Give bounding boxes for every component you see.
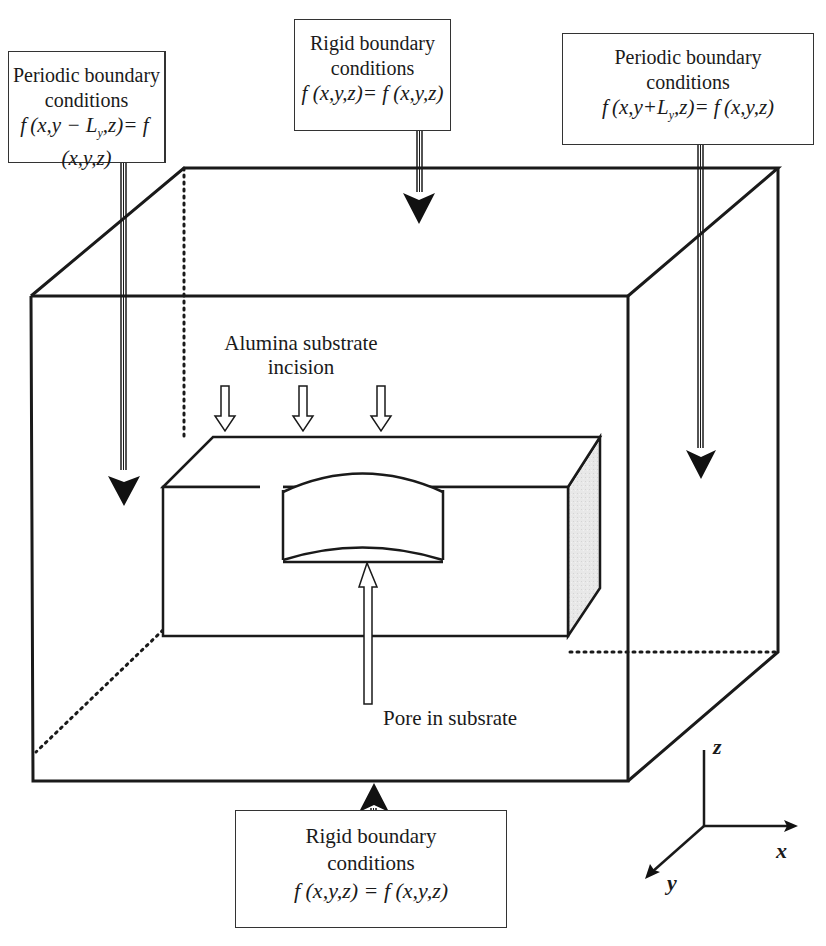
bc-box-periodic-right: Periodic boundary conditions f (x,y+Ly,z… bbox=[562, 33, 814, 145]
axis-label-z: z bbox=[713, 734, 722, 760]
bc-title-line1: Rigid boundary bbox=[236, 823, 506, 850]
incision-arrows bbox=[215, 386, 391, 431]
bc-formula: f (x,y,z) = f (x,y,z) bbox=[236, 877, 506, 904]
bc-title-line1: Rigid boundary bbox=[295, 31, 450, 56]
bc-title-line2: conditions bbox=[563, 70, 813, 95]
substrate-label: Alumina substrate incision bbox=[208, 331, 394, 379]
axis-label-y: y bbox=[667, 870, 677, 896]
bc-box-periodic-left: Periodic boundary conditions f (x,y − Ly… bbox=[8, 51, 165, 163]
bc-formula: f (x,y+Ly,z)= f (x,y,z) bbox=[563, 95, 813, 128]
bc-title-line2: conditions bbox=[236, 850, 506, 877]
bc-formula: f (x,y,z)= f (x,y,z) bbox=[295, 81, 450, 106]
hollow-arrow-down-icon bbox=[371, 386, 391, 431]
bc-box-rigid-top: Rigid boundary conditions f (x,y,z)= f (… bbox=[294, 19, 451, 131]
bc-box-rigid-bottom: Rigid boundary conditions f (x,y,z) = f … bbox=[235, 810, 507, 928]
hollow-arrow-down-icon bbox=[293, 386, 313, 431]
pore-label: Pore in subsrate bbox=[383, 706, 517, 730]
substrate-label-line1: Alumina substrate bbox=[208, 331, 394, 355]
substrate-label-line2: incision bbox=[208, 355, 394, 379]
bc-formula: f (x,y − Ly,z)= f (x,y,z) bbox=[9, 113, 164, 171]
bc-title-line2: conditions bbox=[9, 88, 164, 113]
axis-label-x: x bbox=[776, 838, 787, 864]
solid-arrow-up-icon bbox=[359, 783, 389, 812]
bc-title-line1: Periodic boundary bbox=[9, 63, 164, 88]
solid-arrow-down-icon bbox=[403, 193, 435, 224]
solid-arrow-down-icon bbox=[108, 476, 140, 506]
solid-arrow-down-icon bbox=[686, 450, 716, 479]
bc-arrow-right bbox=[686, 145, 716, 479]
bc-arrow-top bbox=[403, 128, 435, 224]
hollow-arrow-down-icon bbox=[215, 386, 235, 431]
bc-title-line2: conditions bbox=[295, 56, 450, 81]
bc-arrow-left bbox=[108, 160, 140, 506]
bc-title-line1: Periodic boundary bbox=[563, 45, 813, 70]
